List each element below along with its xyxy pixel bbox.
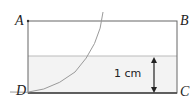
corner-dot-a: [27, 20, 29, 22]
vertex-label-a: A: [15, 14, 24, 28]
diagram-canvas: [0, 0, 196, 101]
measurement-label: 1 cm: [114, 68, 141, 79]
vertex-label-c: C: [180, 85, 189, 99]
vertex-label-d: D: [16, 84, 26, 98]
vertex-label-b: B: [180, 14, 189, 28]
